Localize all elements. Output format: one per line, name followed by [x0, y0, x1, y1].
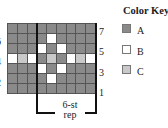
row-label-4: 4	[0, 57, 1, 67]
row-label-6: 6	[0, 37, 1, 47]
chart-cell	[57, 34, 66, 43]
chart-cell	[8, 24, 17, 33]
chart-cell	[57, 54, 66, 63]
chart-cell	[76, 34, 85, 43]
chart-cell	[18, 84, 27, 93]
colorwork-chart-grid	[7, 23, 96, 94]
chart-cell	[86, 24, 95, 33]
chart-cell	[57, 84, 66, 93]
chart-cell	[57, 44, 66, 53]
chart-cell	[67, 84, 76, 93]
chart-cell	[37, 24, 46, 33]
chart-cell	[37, 74, 46, 83]
repeat-label: 6-st rep	[55, 100, 85, 120]
row-label-2: 2	[0, 78, 1, 88]
chart-cell	[18, 34, 27, 43]
chart-cell	[76, 74, 85, 83]
chart-cell	[37, 34, 46, 43]
chart-cell	[47, 34, 56, 43]
chart-cell	[37, 54, 46, 63]
chart-cell	[86, 64, 95, 73]
chart-cell	[28, 74, 37, 83]
chart-cell	[37, 64, 46, 73]
chart-cell	[47, 64, 56, 73]
chart-cell	[67, 34, 76, 43]
chart-cell	[28, 34, 37, 43]
chart-cell	[76, 44, 85, 53]
chart-cell	[57, 74, 66, 83]
chart-cell	[47, 44, 56, 53]
chart-cell	[86, 74, 95, 83]
repeat-right-line	[95, 23, 97, 113]
chart-cell	[8, 54, 17, 63]
chart-cell	[37, 84, 46, 93]
chart-cell	[57, 64, 66, 73]
chart-cell	[86, 34, 95, 43]
key-label-b: B	[137, 47, 144, 57]
chart-cell	[28, 84, 37, 93]
chart-cell	[67, 24, 76, 33]
chart-cell	[18, 74, 27, 83]
chart-cell	[47, 74, 56, 83]
color-key-title: Color Key	[123, 5, 168, 16]
key-label-a: A	[137, 26, 144, 36]
chart-cell	[47, 24, 56, 33]
chart-cell	[47, 84, 56, 93]
chart-cell	[8, 44, 17, 53]
chart-cell	[18, 54, 27, 63]
chart-cell	[76, 84, 85, 93]
chart-cell	[76, 64, 85, 73]
chart-cell	[57, 24, 66, 33]
chart-cell	[18, 64, 27, 73]
chart-cell	[67, 64, 76, 73]
chart-cell	[8, 84, 17, 93]
chart-cell	[67, 44, 76, 53]
chart-cell	[47, 54, 56, 63]
chart-cell	[8, 74, 17, 83]
chart-cell	[67, 54, 76, 63]
chart-cell	[37, 44, 46, 53]
chart-cell	[76, 54, 85, 63]
repeat-left-line	[36, 23, 38, 113]
repeat-label-line2: rep	[55, 110, 85, 120]
chart-cell	[18, 24, 27, 33]
chart-cell	[86, 84, 95, 93]
chart-cell	[28, 24, 37, 33]
chart-cell	[8, 34, 17, 43]
row-label-5: 5	[99, 47, 104, 57]
swatch-c	[122, 65, 131, 74]
chart-cell	[67, 74, 76, 83]
chart-cell	[28, 64, 37, 73]
swatch-b	[122, 45, 131, 54]
chart-cell	[8, 64, 17, 73]
chart-cell	[86, 44, 95, 53]
chart-cell	[28, 54, 37, 63]
swatch-a	[122, 24, 131, 33]
chart-cell	[28, 44, 37, 53]
row-label-3: 3	[99, 68, 104, 78]
chart-cell	[76, 24, 85, 33]
row-label-7: 7	[99, 27, 104, 37]
chart-cell	[18, 44, 27, 53]
key-label-c: C	[137, 67, 144, 77]
row-label-1: 1	[99, 88, 104, 98]
chart-cell	[86, 54, 95, 63]
